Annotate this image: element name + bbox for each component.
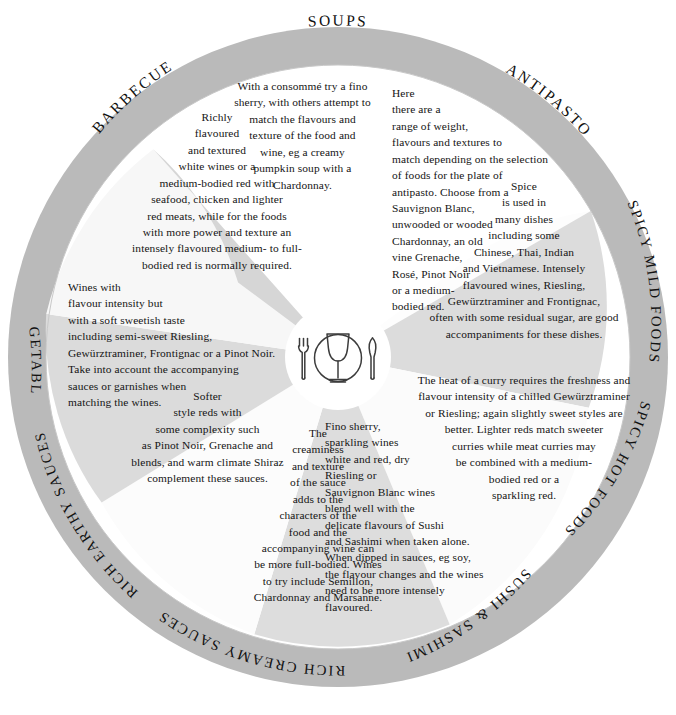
text-line: is used in <box>409 194 639 210</box>
text-line: there are a <box>392 101 592 117</box>
ring-label-soups: SOUPS <box>307 11 368 29</box>
text-line: often with some residual sugar, are good <box>409 309 639 325</box>
text-line: Chardonnay and Marsanne. <box>243 589 393 605</box>
text-line: food and the <box>243 524 393 540</box>
text-line: complement these sauces. <box>100 470 315 486</box>
text-line: with a soft sweetish taste <box>68 312 296 328</box>
text-line: to try include Semillon, <box>243 573 393 589</box>
text-line: and textured <box>106 142 328 158</box>
text-line: red meats, while for the foods <box>106 208 328 224</box>
text-line: as Pinot Noir, Grenache and <box>100 437 315 453</box>
text-line: Gewürztraminer, Frontignac or a Pinot No… <box>68 345 296 361</box>
food-wine-matching-wheel: SOUPS ANTIPASTO SPICY MILD FOODS SPICY H… <box>0 0 676 715</box>
text-line: adds to the <box>243 491 393 507</box>
text-line: with more power and texture an <box>106 224 328 240</box>
text-line: Here <box>392 85 592 101</box>
text-line: many dishes <box>409 211 639 227</box>
text-line: Richly <box>106 109 328 125</box>
text-line: white wines or a <box>106 158 328 174</box>
text-line: match depending on the selection <box>392 151 592 167</box>
text-line: bodied red is normally required. <box>106 257 328 273</box>
text-line: flavoured <box>106 125 328 141</box>
wedge-text-vegetables: Wines withflavour intensity butwith a so… <box>68 279 296 410</box>
text-line: The heat of a curry requires the freshne… <box>400 372 648 388</box>
text-line: medium-bodied red with <box>106 175 328 191</box>
text-line: some complexity such <box>100 421 315 437</box>
text-line: including some <box>409 227 639 243</box>
text-line: flavour intensity but <box>68 295 296 311</box>
text-line: accompanying wine can <box>243 540 393 556</box>
text-line: range of weight, <box>392 118 592 134</box>
text-line: Gewürztraminer and Frontignac, <box>409 293 639 309</box>
text-line: be more full-bodied. Wines <box>243 556 393 572</box>
text-line: intensely flavoured medium- to full- <box>106 240 328 256</box>
text-line: flavours and textures to <box>392 134 592 150</box>
text-line: Chinese, Thai, Indian <box>409 244 639 260</box>
text-line: including semi-sweet Riesling, <box>68 328 296 344</box>
text-line: accompaniments for these dishes. <box>409 326 639 342</box>
text-line: flavoured wines, Riesling, <box>409 277 639 293</box>
text-line: With a consommé try a fino <box>205 78 400 94</box>
text-line: sauces or garnishes when <box>68 378 296 394</box>
text-line: Take into account the accompanying <box>68 361 296 377</box>
text-line: characters of the <box>243 507 393 523</box>
text-line: and Vietnamese. Intensely <box>409 260 639 276</box>
wedge-text-barbecue: Richlyflavouredand texturedwhite wines o… <box>106 109 328 273</box>
text-line: blends, and warm climate Shiraz <box>100 454 315 470</box>
text-line: Spice <box>409 178 639 194</box>
text-line: Wines with <box>68 279 296 295</box>
text-line: seafood, chicken and lighter <box>106 191 328 207</box>
text-line: flavour intensity of a chilled Gewürztra… <box>400 388 648 404</box>
text-line: matching the wines. <box>68 394 296 410</box>
wedge-text-spicy-mild-foods: Spiceis used inmany dishesincluding some… <box>409 178 639 342</box>
